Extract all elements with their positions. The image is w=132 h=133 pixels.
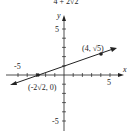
y-tick-label-5: 5 xyxy=(55,25,59,34)
y-axis-label: y xyxy=(56,11,61,20)
point-x-intercept xyxy=(36,73,40,77)
x-tick-label-neg5: -5 xyxy=(14,62,21,71)
point-label-x-intercept: (-2√2, 0) xyxy=(28,83,57,92)
line-series xyxy=(13,49,113,84)
coordinate-plane: 4 + 2√2 x y -5 5 5 -5 xyxy=(0,0,132,133)
y-axis-arrow-icon xyxy=(62,15,66,21)
line-arrow-left-icon xyxy=(10,81,17,85)
x-axis-label: x xyxy=(122,65,127,74)
point-label-4-sqrt5: (4, √5) xyxy=(82,44,104,53)
y-tick-label-neg5: -5 xyxy=(52,117,59,126)
line-arrow-right-icon xyxy=(110,47,117,52)
x-tick-label-5: 5 xyxy=(107,78,111,87)
header-fragment: 4 + 2√2 xyxy=(54,0,79,6)
